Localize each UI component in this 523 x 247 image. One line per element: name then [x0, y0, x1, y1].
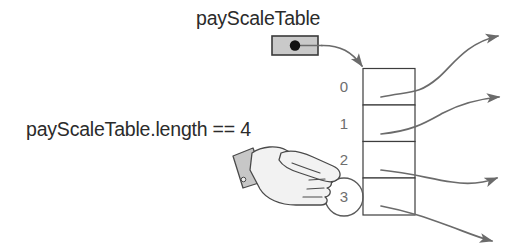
length-expression-label: payScaleTable.length == 4 — [26, 118, 251, 140]
variable-title-label: payScaleTable — [196, 7, 320, 29]
array-index-2: 2 — [340, 151, 348, 168]
reference-dot-icon — [290, 40, 300, 50]
array-cell-2[interactable] — [363, 142, 415, 179]
cuff-button — [241, 177, 246, 182]
array-index-1: 1 — [340, 115, 348, 132]
pointing-hand-icon — [233, 147, 340, 205]
array-cell-1[interactable] — [363, 105, 415, 142]
array-index-3: 3 — [340, 188, 348, 205]
reference-to-array-arrow — [322, 45, 363, 66]
array-reference-diagram: payScaleTable payScaleTable.length == 4 … — [0, 0, 523, 247]
array-index-0: 0 — [340, 78, 348, 95]
array-box — [363, 69, 415, 216]
reference-variable-box — [272, 36, 322, 55]
array-cell-0[interactable] — [363, 69, 415, 106]
diagram-canvas: payScaleTable payScaleTable.length == 4 … — [0, 0, 523, 247]
array-cell-3[interactable] — [363, 178, 415, 215]
